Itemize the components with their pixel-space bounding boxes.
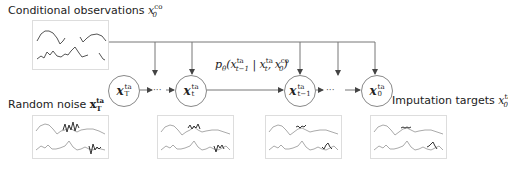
targets-var: xta0 [498, 94, 508, 107]
random-noise-label: Random noise xtaT [8, 98, 101, 111]
intermediate-t-minus-1-plot [265, 115, 342, 159]
svg-text:···: ··· [326, 85, 335, 95]
noise-text: Random noise [8, 98, 86, 111]
noise-plot [32, 115, 109, 159]
conditional-series-chart [33, 21, 108, 69]
imputation-targets-label: Imputation targets xta0 [392, 94, 508, 107]
transition-probability-label: pθ(xtat−1 | xtat, xco0) [215, 58, 288, 71]
imputation-targets-plot [370, 115, 447, 159]
node-x-t: xtat [175, 75, 207, 107]
targets-text: Imputation targets [392, 94, 495, 107]
noise-var: xtaT [90, 98, 102, 111]
noise-series-chart [33, 116, 108, 158]
node-x-0: xta0 [361, 75, 393, 107]
conditional-text: Conditional observations [8, 4, 145, 17]
conditional-observations-label: Conditional observations xco0 [8, 4, 157, 17]
svg-text:···: ··· [153, 85, 162, 95]
node-x-t-minus-1: xtat−1 [284, 75, 316, 107]
intermediate-t-series-chart [158, 116, 233, 158]
conditional-observations-plot [32, 20, 109, 70]
imputation-targets-series-chart [371, 116, 446, 158]
intermediate-t-minus-1-series-chart [266, 116, 341, 158]
conditional-var: xco0 [148, 4, 157, 17]
intermediate-t-plot [157, 115, 234, 159]
node-x-T: xtaT [108, 75, 140, 107]
